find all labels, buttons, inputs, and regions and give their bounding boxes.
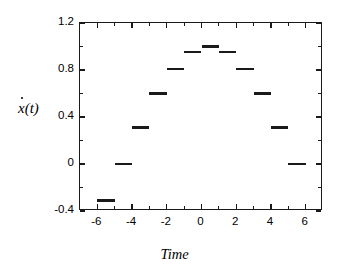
x-axis-tick-major <box>270 204 271 209</box>
x-axis-tick-major <box>166 204 167 209</box>
data-segment <box>184 51 201 53</box>
x-axis-tick-major <box>305 204 306 209</box>
y-axis-tick-major <box>80 69 85 70</box>
data-segment <box>97 199 114 201</box>
y-axis-tick-minor <box>80 140 83 141</box>
data-segment <box>149 92 166 94</box>
data-segment <box>236 68 253 70</box>
x-axis-tick-minor <box>114 206 115 209</box>
data-segment <box>202 45 219 47</box>
y-axis-label-arg: (t) <box>25 100 39 116</box>
x-axis-tick-label: -4 <box>119 216 143 228</box>
y-axis-tick-major <box>316 163 321 164</box>
y-axis-tick-label: -0.4 <box>54 204 74 216</box>
y-axis-tick-labels: -0.400.40.81.2 <box>40 22 74 210</box>
y-axis-tick-major <box>80 163 85 164</box>
x-axis-tick-minor <box>288 206 289 209</box>
y-axis-tick-minor <box>318 46 321 47</box>
x-axis-tick-major <box>305 23 306 28</box>
x-axis-tick-minor <box>218 206 219 209</box>
plot-area <box>79 22 322 210</box>
y-axis-tick-major <box>80 22 85 23</box>
x-axis-tick-major <box>166 23 167 28</box>
x-axis-tick-major <box>131 204 132 209</box>
x-axis-tick-label: 2 <box>223 216 247 228</box>
y-axis-tick-minor <box>318 140 321 141</box>
y-axis-tick-major <box>316 116 321 117</box>
y-axis-tick-label: 1.2 <box>58 16 74 28</box>
y-axis-tick-minor <box>80 187 83 188</box>
y-axis-label: x(t) <box>18 101 39 116</box>
x-axis-tick-major <box>236 23 237 28</box>
data-segment <box>132 126 149 128</box>
x-axis-tick-major <box>201 23 202 28</box>
y-axis-tick-major <box>316 22 321 23</box>
x-axis-tick-major <box>236 204 237 209</box>
x-axis-tick-label: -2 <box>154 216 178 228</box>
data-segment <box>219 51 236 53</box>
x-axis-tick-minor <box>184 206 185 209</box>
y-axis-tick-minor <box>318 187 321 188</box>
y-axis-tick-minor <box>80 46 83 47</box>
data-segment <box>288 163 305 165</box>
y-axis-tick-label: 0.8 <box>58 63 74 75</box>
x-axis-tick-major <box>201 204 202 209</box>
data-segment <box>271 126 288 128</box>
x-axis-label: Time <box>0 247 349 262</box>
x-axis-tick-label: 4 <box>258 216 282 228</box>
y-axis-tick-minor <box>318 93 321 94</box>
x-axis-tick-minor <box>253 23 254 26</box>
derivative-dot-icon <box>21 97 23 99</box>
x-axis-tick-minor <box>149 206 150 209</box>
figure-step-plot: -0.400.40.81.2 x(t) -6-4-20246 Time <box>0 0 349 278</box>
x-axis-tick-major <box>97 204 98 209</box>
data-segment <box>115 163 132 165</box>
y-axis-label-variable: x <box>18 101 25 116</box>
y-axis-tick-major <box>80 210 85 211</box>
x-axis-tick-label: 6 <box>293 216 317 228</box>
data-segment <box>167 68 184 70</box>
x-axis-tick-major <box>97 23 98 28</box>
x-axis-tick-label: -6 <box>84 216 108 228</box>
x-axis-tick-minor <box>288 23 289 26</box>
x-axis-tick-major <box>270 23 271 28</box>
x-axis-tick-minor <box>253 206 254 209</box>
data-segment <box>254 92 271 94</box>
x-axis-tick-minor <box>149 23 150 26</box>
y-axis-tick-major <box>316 210 321 211</box>
x-axis-tick-minor <box>114 23 115 26</box>
x-axis-tick-labels: -6-4-20246 <box>79 216 322 232</box>
x-axis-tick-minor <box>218 23 219 26</box>
y-axis-tick-label: 0.4 <box>58 110 74 122</box>
x-axis-tick-major <box>131 23 132 28</box>
x-axis-tick-minor <box>184 23 185 26</box>
y-axis-tick-major <box>80 116 85 117</box>
y-axis-tick-minor <box>80 93 83 94</box>
y-axis-tick-label: 0 <box>68 157 74 169</box>
x-axis-tick-label: 0 <box>189 216 213 228</box>
y-axis-tick-major <box>316 69 321 70</box>
